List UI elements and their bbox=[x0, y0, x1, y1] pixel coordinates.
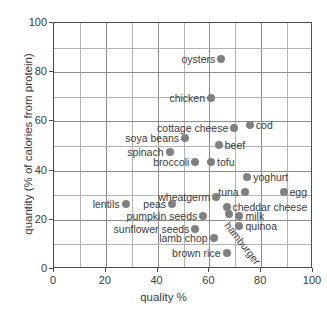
data-point[interactable] bbox=[122, 200, 130, 208]
gridline-vertical bbox=[106, 23, 107, 267]
data-point-label: tuna bbox=[218, 186, 238, 197]
x-axis-title: quality % bbox=[0, 291, 327, 303]
data-point-label: cheddar cheese bbox=[233, 201, 308, 212]
data-point-label: lentils bbox=[93, 199, 120, 210]
data-point-label: egg bbox=[290, 186, 308, 197]
x-axis-tick bbox=[105, 268, 106, 272]
data-point-label: quinoa bbox=[245, 221, 277, 232]
data-point-label: lamb chop bbox=[159, 233, 207, 244]
data-point[interactable] bbox=[181, 134, 189, 142]
data-point-label: chicken bbox=[169, 93, 205, 104]
y-axis-tick bbox=[49, 170, 53, 171]
y-axis-tick bbox=[49, 71, 53, 72]
x-axis-tick bbox=[260, 268, 261, 272]
data-point-label: peas bbox=[143, 199, 166, 210]
y-axis-tick bbox=[49, 268, 53, 269]
x-axis-tick bbox=[157, 268, 158, 272]
gridline-horizontal bbox=[54, 72, 311, 73]
x-axis-tick bbox=[208, 268, 209, 272]
y-axis-tick-label: 40 bbox=[15, 164, 47, 176]
data-point[interactable] bbox=[215, 141, 223, 149]
gridline-horizontal bbox=[54, 146, 311, 147]
data-point-label: soya beans bbox=[125, 132, 179, 143]
y-axis-tick bbox=[49, 22, 53, 23]
x-axis-tick-label: 20 bbox=[99, 274, 111, 286]
y-axis-tick-label: 100 bbox=[15, 16, 47, 28]
data-point[interactable] bbox=[223, 249, 231, 257]
data-point-label: broccoli bbox=[153, 157, 189, 168]
gridline-vertical bbox=[287, 23, 288, 267]
gridline-vertical bbox=[80, 23, 81, 267]
data-point-label: tofu bbox=[217, 157, 235, 168]
data-point-label: brown rice bbox=[172, 248, 220, 259]
data-point[interactable] bbox=[225, 210, 233, 218]
y-axis-tick-label: 0 bbox=[15, 262, 47, 274]
data-point-label: yoghurt bbox=[253, 172, 288, 183]
x-axis-tick-label: 0 bbox=[50, 274, 56, 286]
y-axis-tick-label: 80 bbox=[15, 65, 47, 77]
x-axis-tick-label: 40 bbox=[150, 274, 162, 286]
data-point-label: pumpkin seeds bbox=[127, 211, 198, 222]
x-axis-tick-label: 80 bbox=[254, 274, 266, 286]
y-axis-tick bbox=[49, 219, 53, 220]
data-point[interactable] bbox=[280, 188, 288, 196]
x-axis-tick-label: 60 bbox=[202, 274, 214, 286]
data-point-label: oysters bbox=[182, 54, 216, 65]
gridline-horizontal bbox=[54, 244, 311, 245]
x-axis-tick bbox=[312, 268, 313, 272]
gridline-horizontal bbox=[54, 48, 311, 49]
data-point-label: cod bbox=[256, 120, 273, 131]
y-axis-tick-label: 60 bbox=[15, 114, 47, 126]
data-point[interactable] bbox=[212, 193, 220, 201]
x-axis-tick bbox=[53, 268, 54, 272]
scatter-plot-figure: quality % quantity (% of calories from p… bbox=[0, 0, 327, 315]
data-point-label: beef bbox=[225, 140, 245, 151]
x-axis-tick-label: 100 bbox=[303, 274, 321, 286]
y-axis-tick-label: 20 bbox=[15, 213, 47, 225]
y-axis-title: quantity (% of calories from protein) bbox=[22, 19, 34, 269]
data-point[interactable] bbox=[241, 188, 249, 196]
y-axis-tick bbox=[49, 120, 53, 121]
